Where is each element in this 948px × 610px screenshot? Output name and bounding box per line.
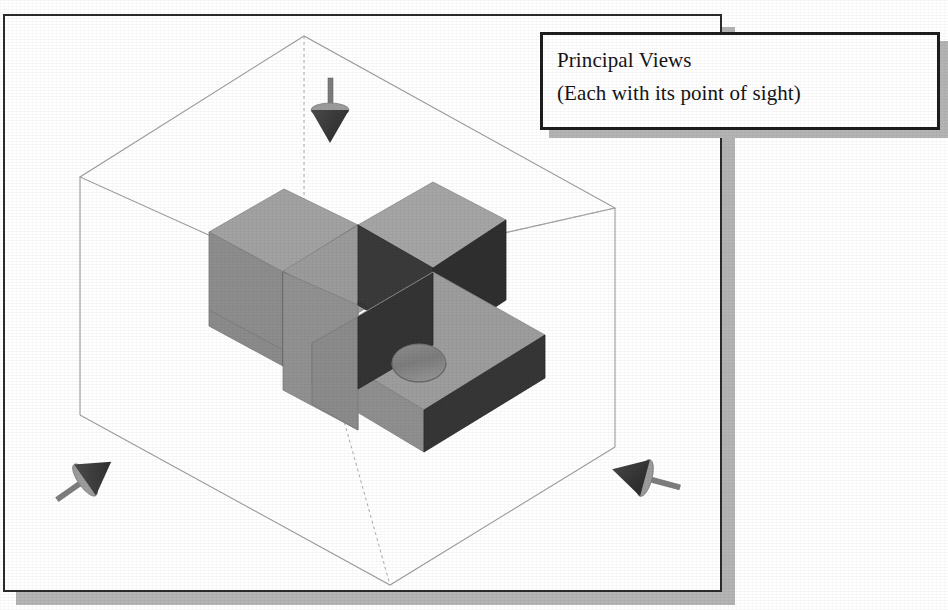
callout-line-2: (Each with its point of sight) xyxy=(557,77,937,110)
callout-line-1: Principal Views xyxy=(557,44,937,77)
illustration-stage: Principal Views (Each with its point of … xyxy=(0,0,948,610)
principal-views-callout: Principal Views (Each with its point of … xyxy=(540,32,940,130)
